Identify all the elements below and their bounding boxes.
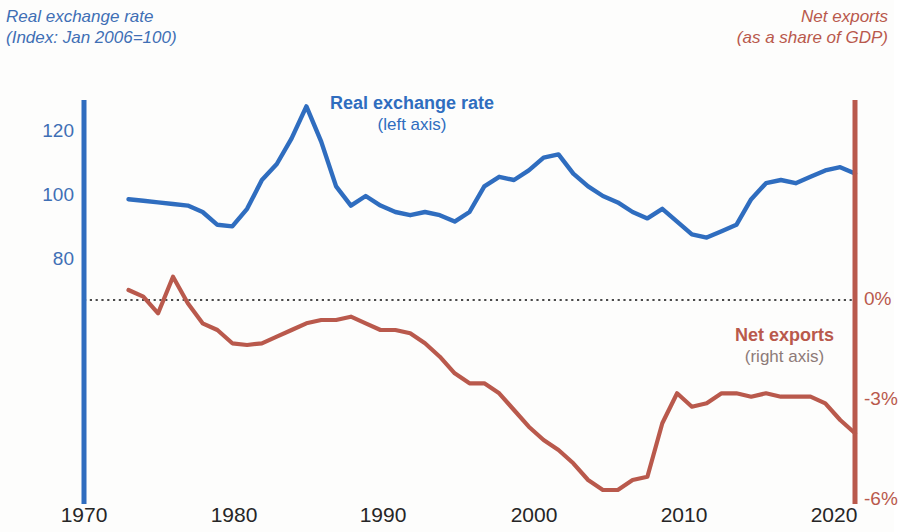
x-tick-2020: 2020 xyxy=(784,503,884,527)
series-label-red-sub: (right axis) xyxy=(735,346,834,368)
left-tick-120: 120 xyxy=(18,120,74,142)
left-tick-100: 100 xyxy=(18,184,74,206)
right-tick-0pct: 0% xyxy=(864,288,891,310)
series-label-net-exports: Net exports(right axis) xyxy=(735,324,834,368)
series-label-blue-title: Real exchange rate xyxy=(330,93,494,113)
series-label-blue-sub: (left axis) xyxy=(330,114,494,136)
x-tick-2000: 2000 xyxy=(484,503,584,527)
series-label-red-title: Net exports xyxy=(735,325,834,345)
x-tick-1980: 1980 xyxy=(184,503,284,527)
x-tick-2010: 2010 xyxy=(634,503,734,527)
net-exports-line xyxy=(129,277,856,490)
left-tick-80: 80 xyxy=(18,248,74,270)
x-tick-1990: 1990 xyxy=(333,503,433,527)
series-label-real-exchange-rate: Real exchange rate(left axis) xyxy=(330,92,494,136)
x-tick-1970: 1970 xyxy=(34,503,134,527)
right-tick-neg3pct: -3% xyxy=(864,388,898,410)
